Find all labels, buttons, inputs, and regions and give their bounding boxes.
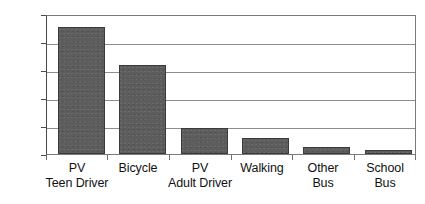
bar-walking	[242, 138, 289, 154]
bar-school-bus	[365, 150, 412, 154]
x-axis-tick-mark-1	[107, 155, 108, 160]
x-axis-label-line1: PV	[192, 161, 208, 175]
x-axis-tick-mark-3	[231, 155, 232, 160]
bar-bicycle	[119, 65, 166, 154]
x-axis-label-line1: Bicycle	[119, 161, 158, 175]
x-axis-label-line1: Other	[308, 161, 339, 175]
x-axis-tick-mark-2	[169, 155, 170, 160]
x-axis-label-line2: Teen Driver	[41, 176, 113, 191]
x-axis-tick-mark-6	[415, 155, 416, 160]
x-axis-tick-mark-0	[46, 155, 47, 160]
x-axis-tick-mark-4	[292, 155, 293, 160]
bar-pv-adult-driver	[181, 128, 228, 154]
x-axis-label-line1: PV	[69, 161, 85, 175]
plot-area	[46, 15, 416, 155]
x-axis-label-line2: Adult Driver	[164, 176, 236, 191]
bar-pv-teen-driver	[58, 27, 105, 154]
bar-chart: 2500 2000 1500 1000 500 0 PV Teen Driver…	[0, 0, 425, 204]
x-axis-label-school-bus: School Bus	[349, 161, 421, 190]
x-axis-tick-mark-5	[354, 155, 355, 160]
bar-other-bus	[303, 147, 350, 154]
x-axis-label-line1: Walking	[240, 161, 283, 175]
x-axis-label-line1: School	[366, 161, 404, 175]
x-axis-label-line2: Bus	[349, 176, 421, 191]
